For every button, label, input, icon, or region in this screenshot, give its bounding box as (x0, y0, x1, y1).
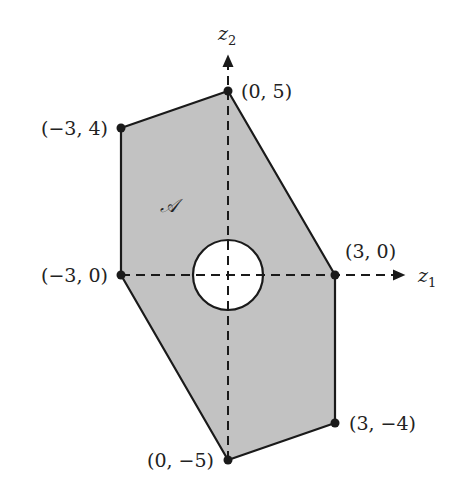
vertex-dot (331, 419, 340, 428)
vertex-dot (331, 271, 340, 280)
vertex-dot (117, 271, 126, 280)
vertex-label: (−3, 0) (41, 264, 108, 286)
vertex-label: (0, 5) (241, 80, 292, 102)
vertex-dot (224, 456, 233, 465)
vertex-dot (117, 124, 126, 133)
vertex-label: (3, 0) (345, 240, 396, 262)
z2-axis-label: z2 (217, 22, 236, 48)
vertex-label: (−3, 4) (41, 117, 108, 139)
vertex-label: (0, −5) (147, 449, 214, 471)
vertex-dot (224, 87, 233, 96)
vertex-label: (3, −4) (349, 412, 416, 434)
z1-axis-label: z1 (417, 264, 436, 290)
polygon-diagram: z1 z2 (0, 5) (−3, 4) (−3, 0) (0, −5) (3,… (0, 0, 449, 493)
